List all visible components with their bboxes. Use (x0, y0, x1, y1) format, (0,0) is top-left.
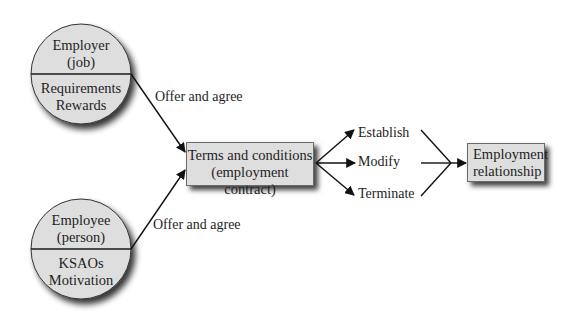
employer-attributes: Requirements Rewards (31, 80, 131, 114)
employee-subtitle: (person) (31, 229, 131, 246)
upper-offer-arrow (131, 74, 185, 152)
lower-offer-label: Offer and agree (153, 217, 241, 233)
employment-relationship-box: Employment relationship (467, 143, 545, 182)
employer-requirements: Requirements (31, 80, 131, 97)
establish-converge-line (421, 130, 451, 163)
action-modify: Modify (358, 154, 400, 170)
terminate-arrow (316, 163, 354, 195)
employee-motivation: Motivation (31, 272, 131, 289)
employee-attributes: KSAOs Motivation (31, 255, 131, 289)
establish-arrow (316, 130, 354, 163)
employee-label: Employee (person) (31, 212, 131, 246)
terminate-converge-line (421, 163, 451, 196)
terms-line-1: Terms and conditions (187, 147, 313, 164)
terms-and-conditions-box: Terms and conditions (employment contrac… (186, 142, 314, 186)
relationship-line-1: Employment (473, 146, 544, 163)
relationship-line-2: relationship (473, 163, 544, 180)
lower-offer-arrow (131, 170, 185, 249)
upper-offer-label: Offer and agree (155, 89, 243, 105)
terms-line-2: (employment contract) (187, 164, 313, 198)
employer-label: Employer (job) (31, 37, 131, 71)
action-terminate: Terminate (358, 186, 415, 202)
employer-title: Employer (31, 37, 131, 54)
employee-ksaos: KSAOs (31, 255, 131, 272)
employee-title: Employee (31, 212, 131, 229)
action-establish: Establish (358, 125, 409, 141)
employer-subtitle: (job) (31, 54, 131, 71)
employer-rewards: Rewards (31, 97, 131, 114)
